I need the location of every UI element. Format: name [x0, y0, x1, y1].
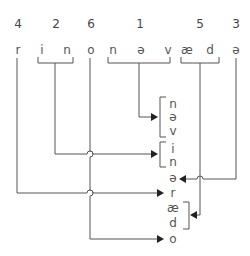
source-segment: d — [206, 43, 214, 57]
connector-group-1 — [139, 63, 153, 117]
source-segment: æ — [181, 43, 193, 57]
connector-group-6 — [90, 58, 159, 239]
target-segment: v — [169, 124, 176, 138]
order-number: 1 — [136, 17, 144, 31]
source-segment: n — [63, 43, 71, 57]
order-numbers: 4 2 6 1 5 3 — [14, 17, 240, 31]
source-segments: r i n o n ə v æ d ə — [16, 43, 240, 57]
arrow-head-icon — [190, 211, 197, 219]
target-segment: r — [171, 186, 176, 200]
bracket-group-2 — [38, 57, 73, 63]
reordering-diagram: 4 2 6 1 5 3 r i n o n ə v æ d ə — [0, 0, 250, 256]
target-segment: ə — [169, 110, 176, 124]
arrow-head-icon — [157, 235, 164, 243]
order-number: 3 — [232, 17, 240, 31]
connectors — [17, 58, 236, 243]
order-number: 6 — [87, 17, 95, 31]
target-segment: æ — [167, 201, 179, 215]
target-segment: i — [171, 142, 174, 156]
source-segment: ə — [232, 43, 239, 57]
target-segment: o — [169, 232, 176, 246]
target-segment: ə — [169, 171, 176, 185]
arrow-head-icon — [179, 175, 186, 183]
source-segment: v — [164, 43, 171, 57]
target-segments: n ə v i n ə r æ d o — [167, 97, 179, 246]
bracket-group-1 — [108, 57, 170, 63]
order-number: 4 — [14, 17, 22, 31]
source-segment: r — [16, 43, 21, 57]
connector-group-5 — [196, 63, 200, 215]
source-segment: n — [109, 43, 117, 57]
source-brackets — [38, 57, 219, 63]
target-bracket-group-2 — [160, 142, 166, 167]
connector-group-2 — [55, 63, 153, 154]
source-segment: i — [40, 43, 43, 57]
target-segment: n — [169, 155, 177, 169]
target-segment: n — [169, 97, 177, 111]
connector-group-4 — [17, 58, 159, 193]
target-bracket-group-5 — [183, 202, 189, 229]
arrow-head-icon — [151, 150, 158, 158]
bracket-group-5 — [181, 57, 219, 63]
arrow-head-icon — [157, 189, 164, 197]
order-number: 2 — [52, 17, 60, 31]
source-segment: ə — [137, 43, 144, 57]
connector-group-3 — [185, 58, 236, 179]
target-bracket-group-1 — [160, 97, 166, 137]
target-segment: d — [169, 216, 177, 230]
arrow-head-icon — [151, 113, 158, 121]
source-segment: o — [87, 43, 94, 57]
order-number: 5 — [196, 17, 204, 31]
